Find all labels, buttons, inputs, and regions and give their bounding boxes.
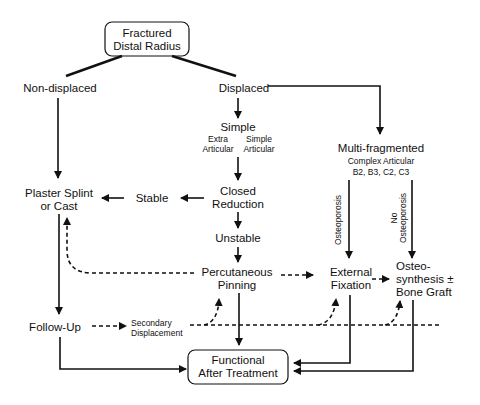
- svg-text:Osteo-: Osteo-: [396, 260, 431, 272]
- svg-text:or Cast: or Cast: [40, 200, 78, 212]
- svg-text:Extra: Extra: [208, 134, 228, 144]
- svg-text:Articular: Articular: [243, 144, 274, 154]
- svg-text:Simple: Simple: [220, 121, 255, 133]
- svg-text:Plaster Splint: Plaster Splint: [25, 187, 94, 199]
- svg-text:Pinning: Pinning: [218, 279, 256, 291]
- svg-text:Multi-fragmented: Multi-fragmented: [338, 142, 424, 154]
- edge-displaced-to-multi: [268, 86, 380, 134]
- node-secondary-displacement: Secondary Displacement: [131, 318, 183, 338]
- svg-text:Simple: Simple: [246, 134, 272, 144]
- node-osteosynthesis-bone-graft: Osteo- synthesis ± Bone Graft: [396, 260, 453, 298]
- svg-text:After Treatment: After Treatment: [198, 367, 278, 379]
- svg-text:Functional: Functional: [211, 354, 264, 366]
- edge-root-to-displaced: [172, 56, 236, 76]
- edge-external-fixation-to-functional: [294, 295, 350, 363]
- svg-text:Bone Graft: Bone Graft: [396, 286, 452, 298]
- svg-text:Reduction: Reduction: [212, 198, 264, 210]
- svg-text:Fixation: Fixation: [331, 279, 371, 291]
- svg-text:synthesis ±: synthesis ±: [396, 273, 453, 285]
- edge-pinning-to-plaster-dashed: [67, 218, 194, 273]
- svg-text:Percutaneous: Percutaneous: [202, 266, 273, 278]
- node-closed-reduction: Closed Reduction: [212, 185, 264, 210]
- svg-text:B2, B3, C2, C3: B2, B3, C2, C3: [353, 167, 410, 177]
- node-percutaneous-pinning: Percutaneous Pinning: [202, 266, 273, 291]
- svg-text:Articular: Articular: [202, 144, 233, 154]
- svg-text:Displacement: Displacement: [131, 328, 183, 338]
- svg-text:Closed: Closed: [220, 185, 256, 197]
- svg-text:Distal Radius: Distal Radius: [113, 40, 181, 52]
- node-functional-after-treatment: Functional After Treatment: [188, 350, 288, 384]
- edge-follow-up-to-functional: [60, 337, 186, 369]
- node-external-fixation: External Fixation: [330, 266, 372, 291]
- node-displaced: Displaced: [219, 82, 270, 94]
- node-multi-fragmented: Multi-fragmented Complex Articular B2, B…: [338, 142, 424, 177]
- edge-secondary-to-osteosynthesis-dashed: [385, 301, 400, 325]
- svg-text:Complex Articular: Complex Articular: [348, 156, 415, 166]
- svg-text:External: External: [330, 266, 372, 278]
- svg-text:Secondary: Secondary: [131, 318, 172, 328]
- node-plaster-splint-or-cast: Plaster Splint or Cast: [25, 187, 94, 212]
- label-no-osteoporosis-2: Osteoporosis: [398, 193, 408, 243]
- edge-root-to-non-displaced: [66, 56, 122, 76]
- edge-secondary-to-pinning-dashed: [204, 299, 219, 325]
- node-fractured-distal-radius: Fractured Distal Radius: [105, 22, 189, 56]
- node-unstable: Unstable: [215, 232, 260, 244]
- svg-text:Fractured: Fractured: [122, 27, 171, 39]
- fracture-treatment-flowchart: Fractured Distal Radius Non-displaced Di…: [0, 0, 480, 405]
- node-non-displaced: Non-displaced: [23, 82, 97, 94]
- label-osteoporosis: Osteoporosis: [333, 195, 343, 245]
- edge-secondary-to-external-fixation-dashed: [318, 299, 336, 325]
- node-simple: Simple Extra Articular Simple Articular: [202, 121, 274, 154]
- node-stable: Stable: [136, 192, 169, 204]
- node-follow-up: Follow-Up: [29, 321, 81, 333]
- edge-osteosynthesis-to-functional: [294, 300, 413, 371]
